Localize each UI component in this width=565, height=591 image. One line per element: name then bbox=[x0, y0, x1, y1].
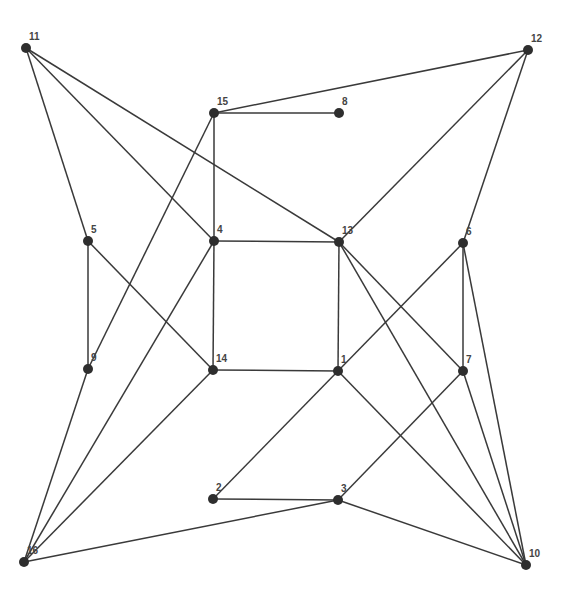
edge-3-16 bbox=[24, 500, 338, 562]
graph-canvas: 12345678910111213141516 bbox=[0, 0, 565, 591]
node-label-13: 13 bbox=[342, 225, 354, 236]
edge-13-1 bbox=[338, 242, 339, 371]
node-6 bbox=[458, 238, 468, 248]
edges-layer bbox=[24, 48, 528, 565]
node-label-2: 2 bbox=[216, 482, 222, 493]
edge-11-5 bbox=[26, 48, 88, 241]
edge-9-16 bbox=[24, 369, 88, 562]
node-3 bbox=[333, 495, 343, 505]
node-2 bbox=[208, 494, 218, 504]
node-15 bbox=[209, 108, 219, 118]
node-label-10: 10 bbox=[529, 548, 541, 559]
edge-14-16 bbox=[24, 370, 213, 562]
edge-3-10 bbox=[338, 500, 526, 565]
node-1 bbox=[333, 366, 343, 376]
edge-15-9 bbox=[88, 113, 214, 369]
node-label-5: 5 bbox=[91, 224, 97, 235]
node-14 bbox=[208, 365, 218, 375]
node-8 bbox=[334, 108, 344, 118]
node-label-7: 7 bbox=[466, 354, 472, 365]
edge-11-13 bbox=[26, 48, 339, 242]
node-label-1: 1 bbox=[341, 354, 347, 365]
edge-4-16 bbox=[24, 241, 214, 562]
node-13 bbox=[334, 237, 344, 247]
edge-5-14 bbox=[88, 241, 213, 370]
node-16 bbox=[19, 557, 29, 567]
edge-12-13 bbox=[339, 50, 528, 242]
node-label-9: 9 bbox=[91, 352, 97, 363]
node-label-4: 4 bbox=[217, 224, 223, 235]
edge-4-13 bbox=[214, 241, 339, 242]
node-label-11: 11 bbox=[29, 31, 40, 42]
node-label-3: 3 bbox=[341, 483, 347, 494]
node-label-14: 14 bbox=[216, 353, 228, 364]
node-7 bbox=[458, 366, 468, 376]
node-12 bbox=[523, 45, 533, 55]
edge-14-1 bbox=[213, 370, 338, 371]
node-label-8: 8 bbox=[342, 96, 348, 107]
node-label-15: 15 bbox=[217, 96, 229, 107]
nodes-layer bbox=[19, 43, 533, 570]
node-label-6: 6 bbox=[466, 226, 472, 237]
node-4 bbox=[209, 236, 219, 246]
node-11 bbox=[21, 43, 31, 53]
edge-1-10 bbox=[338, 371, 526, 565]
node-label-16: 16 bbox=[27, 545, 39, 556]
node-9 bbox=[83, 364, 93, 374]
edge-4-14 bbox=[213, 241, 214, 370]
edge-2-3 bbox=[213, 499, 338, 500]
node-5 bbox=[83, 236, 93, 246]
edge-12-6 bbox=[463, 50, 528, 243]
node-label-12: 12 bbox=[531, 33, 543, 44]
edge-6-10 bbox=[463, 243, 526, 565]
edge-11-4 bbox=[26, 48, 214, 241]
node-10 bbox=[521, 560, 531, 570]
edge-15-12 bbox=[214, 50, 528, 113]
